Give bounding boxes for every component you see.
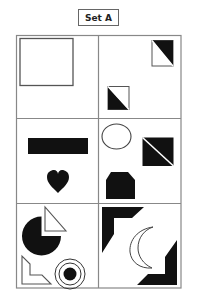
split-square-icon	[152, 41, 173, 67]
split-square-icon	[108, 87, 129, 110]
cell-3-1	[22, 207, 85, 289]
outlined-ellipse-icon	[102, 124, 131, 149]
split-square-icon	[143, 138, 174, 167]
target-icon	[55, 259, 85, 289]
outlined-l-shape-icon	[22, 256, 51, 284]
heart-icon	[47, 170, 69, 193]
cell-2-1	[28, 138, 88, 193]
black-rectangle-icon	[28, 138, 88, 154]
outlined-triangle-icon	[45, 207, 66, 231]
shape-grid	[0, 0, 217, 299]
outlined-square-icon	[20, 39, 73, 86]
cell-1-1	[20, 39, 73, 86]
octagon-block-icon	[106, 172, 135, 199]
crescent-moon-icon	[130, 227, 153, 268]
cell-2-2	[102, 124, 174, 199]
corner-chevron-bottom-right-icon	[137, 240, 177, 285]
cell-3-2	[102, 207, 177, 285]
cell-1-2	[108, 41, 173, 110]
